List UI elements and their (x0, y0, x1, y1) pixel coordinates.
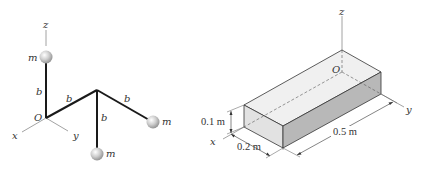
rod-label-b: b (36, 86, 42, 97)
y-axis (46, 118, 68, 131)
dimension-width: 0.2 m (237, 141, 261, 152)
dimension-height: 0.1 m (201, 116, 225, 127)
mass-ball-right (147, 116, 160, 129)
arrow-head (230, 111, 233, 115)
rod-label-b: b (124, 93, 130, 104)
z-axis-label: z (338, 6, 345, 17)
dim-extension (227, 105, 244, 112)
x-axis-label: x (210, 136, 216, 147)
dim-extension (227, 127, 244, 134)
rod-label-b: b (66, 93, 72, 104)
mass-ball-top (40, 51, 53, 64)
mass-ball-bottom (91, 148, 104, 161)
y-axis-label: y (405, 104, 412, 115)
rectangular-box: z y x O 0.1 m 0.2 m (201, 6, 412, 158)
arrow-head (297, 152, 302, 155)
dim-extension (283, 148, 300, 157)
x-axis-label: x (12, 130, 18, 141)
dim-extension (266, 148, 283, 158)
rod-label-b: b (101, 112, 107, 123)
origin-label: O (34, 112, 42, 123)
z-axis-label: z (42, 19, 49, 30)
diagram-canvas: z x y O b b b b m m m z (0, 0, 422, 172)
mass-label-m: m (162, 116, 171, 127)
arrow-head (231, 134, 235, 138)
y-axis-label: y (72, 130, 79, 141)
origin-label: O (332, 64, 340, 75)
arrow-head (266, 153, 270, 157)
arrow-head (230, 129, 233, 133)
dim-extension (381, 94, 397, 103)
mass-label-m: m (28, 52, 37, 63)
mass-label-m: m (106, 148, 115, 159)
dimension-length: 0.5 m (333, 126, 357, 137)
mass-rod-system: z x y O b b b b m m m (12, 19, 171, 161)
arrow-head (389, 102, 394, 105)
